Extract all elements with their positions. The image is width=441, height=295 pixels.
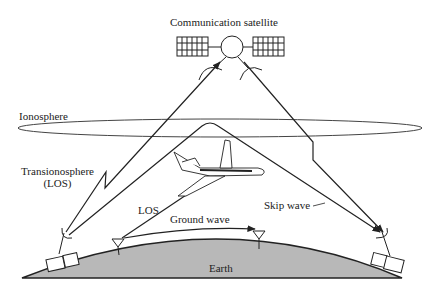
left-ground-station-icon [46,228,79,272]
ionosphere-label: Ionosphere [19,110,68,122]
ground-wave-path [124,228,255,238]
transionosphere-label-line1: Transionosphere [21,165,94,177]
skip-wave-label: Skip wave [264,199,310,211]
skip-wave-leader [313,203,325,206]
right-ground-station-icon [371,228,404,273]
satellite-icon [177,36,284,80]
airplane-icon [174,140,264,196]
earth-label: Earth [209,262,233,274]
satellite-label: Communication satellite [170,16,278,28]
transionosphere-label-line2: (LOS) [21,177,94,189]
propagation-diagram [0,0,441,295]
los-label: LOS [138,204,159,216]
ground-wave-label: Ground wave [170,213,230,225]
transionosphere-label: Transionosphere (LOS) [21,165,94,189]
